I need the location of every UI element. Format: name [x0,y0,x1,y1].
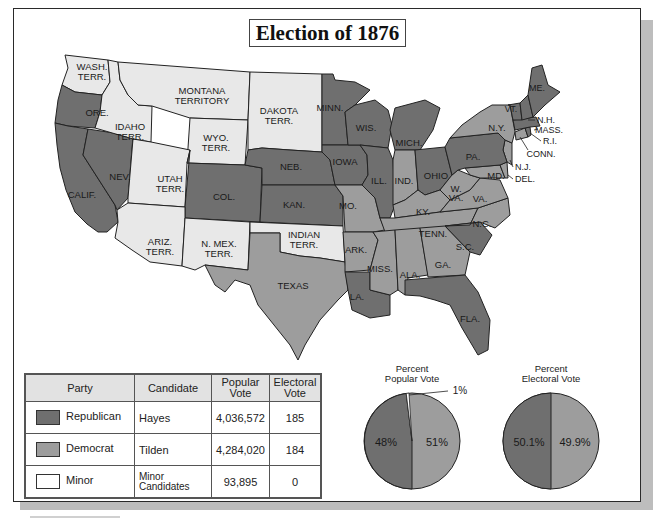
svg-text:LA.: LA. [350,291,364,302]
svg-text:TERR.: TERR. [290,239,319,250]
svg-text:TENN.: TENN. [419,228,448,239]
electoral-dem-pct: 49.9% [559,436,590,448]
svg-text:TEXAS: TEXAS [277,280,308,291]
header-party: Party [25,374,135,402]
republican-swatch [36,410,60,425]
map-title: Election of 1876 [249,19,406,47]
svg-text:R.I.: R.I. [543,136,557,146]
svg-text:TERR.: TERR. [205,248,234,259]
table-row: Democrat Tilden 4,284,020 184 [25,434,321,466]
svg-text:N.C.: N.C. [473,218,492,229]
svg-text:MASS.: MASS. [535,125,563,135]
svg-text:KY.: KY. [416,206,430,217]
svg-text:TERRITORY: TERRITORY [175,95,230,106]
svg-text:CALIF.: CALIF. [68,189,97,200]
svg-text:OHIO: OHIO [424,170,448,181]
svg-text:N.J.: N.J. [515,162,531,172]
svg-text:MISS.: MISS. [367,263,393,274]
svg-text:TERR.: TERR. [116,131,145,142]
popular-rep-pct: 48% [375,436,397,448]
svg-text:FLA.: FLA. [460,313,480,324]
svg-text:NEB.: NEB. [280,161,302,172]
svg-text:N.Y.: N.Y. [488,122,505,133]
svg-text:DEL.: DEL. [515,174,535,184]
svg-text:WIS.: WIS. [356,122,377,133]
svg-text:S.C.: S.C. [456,241,474,252]
svg-text:TERR.: TERR. [202,142,231,153]
popular-vote-title: Percent Popular Vote [370,364,454,384]
svg-text:MINN.: MINN. [317,102,344,113]
table-header-row: Party Candidate PopularVote ElectoralVot… [25,374,321,402]
table-row: Minor MinorCandidates 93,895 0 [25,466,321,499]
svg-text:NEV.: NEV. [109,171,130,182]
svg-text:TERR.: TERR. [78,71,107,82]
svg-text:TERR.: TERR. [265,115,294,126]
svg-text:MICH.: MICH. [396,137,423,148]
svg-text:KAN.: KAN. [283,199,305,210]
svg-text:VA.: VA. [473,193,488,204]
svg-text:TERR.: TERR. [156,183,185,194]
svg-text:ORE.: ORE. [85,107,108,118]
svg-text:MO.: MO. [339,200,357,211]
electoral-rep-pct: 50.1% [513,436,544,448]
header-candidate: Candidate [135,374,212,402]
svg-text:VT.: VT. [505,104,517,114]
popular-dem-pct: 51% [426,436,448,448]
svg-text:MD.: MD. [487,170,504,181]
header-popular-vote: PopularVote [212,374,270,402]
svg-text:COL.: COL. [213,191,235,202]
svg-text:N.H.: N.H. [537,115,555,125]
popular-minor-pct: 1% [453,385,468,396]
svg-text:VA.: VA. [449,192,464,203]
svg-text:PA.: PA. [466,151,481,162]
svg-text:ARK.: ARK. [345,244,367,255]
democrat-swatch [36,442,60,457]
results-table: Party Candidate PopularVote ElectoralVot… [24,373,322,499]
svg-text:GA.: GA. [435,259,451,270]
svg-text:CONN.: CONN. [527,149,556,159]
svg-text:ME.: ME. [529,83,545,93]
svg-text:ILL.: ILL. [371,175,387,186]
table-row: Republican Hayes 4,036,572 185 [25,402,321,434]
header-electoral-vote: ElectoralVote [269,374,321,402]
svg-text:TERR.: TERR. [146,246,175,257]
minor-swatch [36,474,60,489]
svg-text:ALA.: ALA. [400,269,421,280]
svg-text:IND.: IND. [395,175,414,186]
svg-text:IOWA: IOWA [333,156,359,167]
electoral-vote-title: Percent Electoral Vote [506,364,596,384]
